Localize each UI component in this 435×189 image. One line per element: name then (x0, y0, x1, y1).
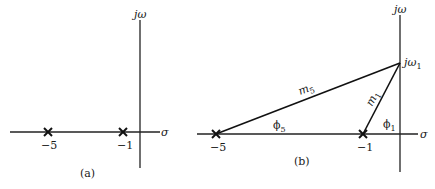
panel-a: −5 −1 jω σ (a) (10, 8, 169, 180)
pole-label-b-minus1: −1 (357, 141, 373, 154)
angle-label-phi5: ϕ5 (273, 119, 286, 134)
test-point-label: jω1 (401, 56, 421, 71)
pole-diagram: −5 −1 jω σ (a) −5 −1 jω σ jω1 m5 m1 ϕ5 ϕ… (0, 0, 435, 189)
magnitude-label-m1: m1 (363, 89, 384, 110)
caption-a: (a) (80, 167, 95, 180)
angle-label-phi1: ϕ1 (383, 118, 396, 133)
real-axis-label-b: σ (420, 128, 428, 141)
real-axis-label-a: σ (161, 126, 169, 139)
pole-label-a-minus5: −5 (41, 139, 57, 152)
panel-b: −5 −1 jω σ jω1 m5 m1 ϕ5 ϕ1 (b) (197, 3, 428, 172)
imag-axis-label-a: jω (131, 8, 146, 21)
caption-b: (b) (294, 155, 310, 168)
imag-axis-label-b: jω (391, 3, 406, 16)
pole-label-a-minus1: −1 (117, 139, 133, 152)
pole-label-b-minus5: −5 (210, 141, 226, 154)
